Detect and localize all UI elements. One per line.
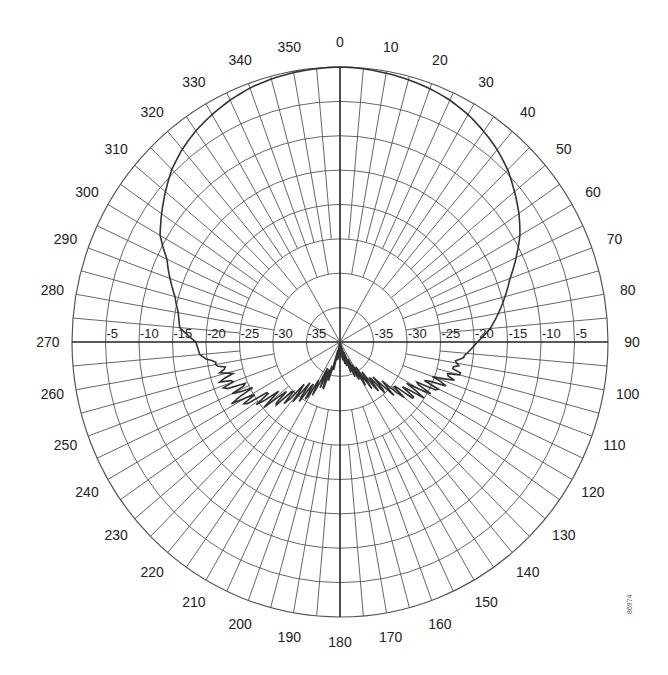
grid-spoke xyxy=(349,445,364,616)
angle-label: 150 xyxy=(474,594,498,610)
radial-tick-label: -5 xyxy=(576,326,588,341)
grid-spoke xyxy=(382,93,453,249)
radial-tick-label: -10 xyxy=(542,326,561,341)
grid-spoke xyxy=(411,148,529,270)
angle-label: 70 xyxy=(607,231,623,247)
angle-label: 280 xyxy=(41,282,65,298)
grid-spoke xyxy=(349,68,364,239)
grid-spoke xyxy=(317,445,332,616)
grid-spoke xyxy=(437,271,599,315)
grid-spoke xyxy=(411,415,529,537)
polar-chart: 0102030405060708090100110120130140150160… xyxy=(0,0,668,675)
radial-tick-label: -25 xyxy=(442,326,461,341)
angle-label: 110 xyxy=(603,437,626,453)
angle-label: 120 xyxy=(581,484,605,500)
grid-spoke xyxy=(97,386,249,459)
angle-label: 170 xyxy=(379,629,403,645)
radial-tick-label: -35 xyxy=(308,326,327,341)
angle-label: 250 xyxy=(54,437,78,453)
grid-spoke xyxy=(403,366,592,437)
grid-spoke xyxy=(382,435,453,591)
radial-tick-label: -20 xyxy=(207,326,226,341)
angle-label: 200 xyxy=(228,616,252,632)
angle-label: 230 xyxy=(105,527,129,543)
angle-label: 100 xyxy=(616,386,640,402)
angle-label: 180 xyxy=(328,634,352,650)
radial-tick-label: -15 xyxy=(174,326,193,341)
grid-spoke xyxy=(363,407,432,601)
grid-spoke xyxy=(227,93,298,249)
grid-spoke xyxy=(150,148,268,270)
angle-label: 220 xyxy=(141,564,165,580)
grid-spoke xyxy=(363,84,432,278)
angle-label: 330 xyxy=(182,74,206,90)
radial-tick-label: -30 xyxy=(408,326,427,341)
angle-label: 10 xyxy=(383,39,399,55)
angle-label: 270 xyxy=(36,334,60,350)
angle-label: 0 xyxy=(336,34,344,50)
angle-label: 240 xyxy=(75,484,99,500)
radial-tick-label: -25 xyxy=(241,326,260,341)
angle-label: 40 xyxy=(520,104,536,120)
grid-spoke xyxy=(81,369,243,413)
angle-label: 20 xyxy=(432,52,448,68)
grid-spoke xyxy=(317,68,332,239)
grid-spoke xyxy=(81,271,243,315)
radial-tick-label: -10 xyxy=(140,326,159,341)
angle-label: 300 xyxy=(75,184,99,200)
angle-label: 130 xyxy=(552,527,576,543)
grid-spoke xyxy=(248,407,317,601)
radial-tick-label: -15 xyxy=(509,326,528,341)
grid-spoke xyxy=(366,442,409,608)
angle-label: 90 xyxy=(624,334,640,350)
angle-label: 50 xyxy=(556,141,572,157)
angle-label: 140 xyxy=(516,564,540,580)
angle-label: 350 xyxy=(278,39,302,55)
angle-label: 80 xyxy=(620,282,636,298)
angle-label: 340 xyxy=(228,52,252,68)
grid-spoke xyxy=(271,442,314,608)
radial-tick-label: -30 xyxy=(274,326,293,341)
grid-spoke xyxy=(403,248,592,319)
angle-label: 320 xyxy=(141,104,165,120)
angle-label: 160 xyxy=(428,616,452,632)
grid-spoke xyxy=(366,76,409,242)
grid-spoke xyxy=(437,369,599,413)
angle-label: 260 xyxy=(41,386,65,402)
grid-spoke xyxy=(227,435,298,591)
figure-id: 86974 xyxy=(626,574,638,614)
grid-spoke xyxy=(150,415,268,537)
grid-spoke xyxy=(88,248,277,319)
angle-label: 210 xyxy=(182,594,206,610)
grid-spoke xyxy=(248,84,317,278)
grid-spoke xyxy=(88,366,277,437)
angle-label: 290 xyxy=(54,231,78,247)
angle-label: 190 xyxy=(278,629,302,645)
grid-spoke xyxy=(440,351,607,366)
grid-spoke xyxy=(271,76,314,242)
grid-spoke xyxy=(431,386,583,459)
angle-label: 60 xyxy=(585,184,601,200)
angle-label: 30 xyxy=(478,74,494,90)
radial-tick-label: -5 xyxy=(107,326,119,341)
angle-label: 310 xyxy=(105,141,129,157)
radial-tick-label: -35 xyxy=(375,326,394,341)
radial-labels: -5-10-15-20-25-30-35-35-30-25-20-15-10-5 xyxy=(107,326,588,341)
